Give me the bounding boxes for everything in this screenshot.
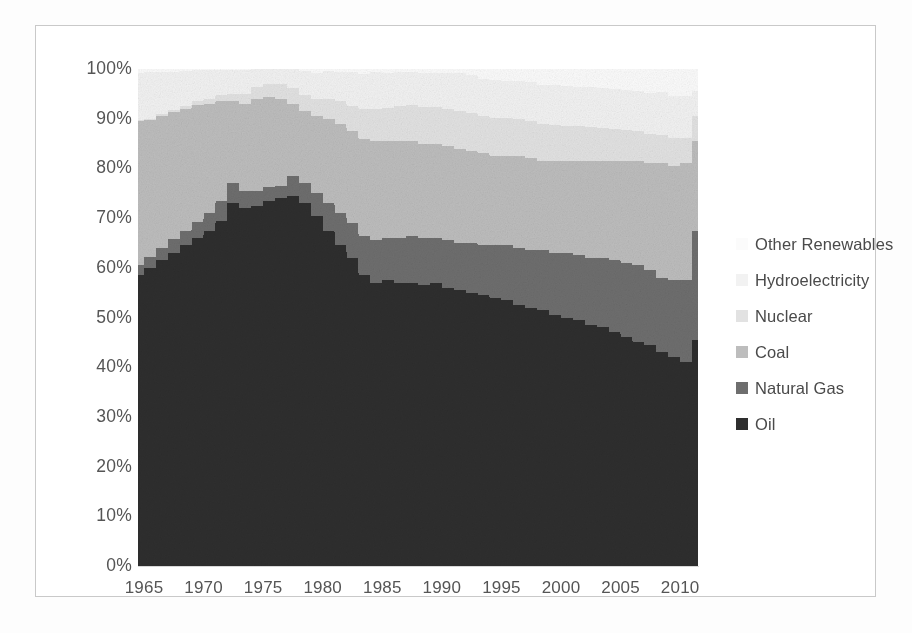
- legend-swatch-icon: [736, 310, 748, 322]
- x-axis-tick-label: 2010: [645, 578, 715, 598]
- x-axis: 1965197019751980198519901995200020052010: [138, 578, 708, 608]
- legend-item[interactable]: Other Renewables: [736, 226, 904, 262]
- legend-item-label: Natural Gas: [755, 379, 844, 398]
- chart-legend: Other RenewablesHydroelectricityNuclearC…: [736, 226, 904, 442]
- legend-item-label: Nuclear: [755, 307, 813, 326]
- y-axis-tick-label: 20%: [70, 456, 132, 477]
- y-axis-tick-label: 30%: [70, 406, 132, 427]
- plot-area: [138, 69, 698, 566]
- legend-swatch-icon: [736, 382, 748, 394]
- y-axis: 0%10%20%30%40%50%60%70%80%90%100%: [66, 69, 132, 566]
- y-axis-tick-label: 0%: [70, 555, 132, 576]
- legend-item-label: Hydroelectricity: [755, 271, 869, 290]
- y-axis-tick-label: 70%: [70, 207, 132, 228]
- y-axis-tick-label: 80%: [70, 157, 132, 178]
- legend-item[interactable]: Natural Gas: [736, 370, 904, 406]
- legend-item[interactable]: Coal: [736, 334, 904, 370]
- legend-item-label: Coal: [755, 343, 789, 362]
- legend-swatch-icon: [736, 274, 748, 286]
- x-axis-line: [138, 566, 699, 567]
- y-axis-tick-label: 50%: [70, 307, 132, 328]
- y-axis-tick-label: 60%: [70, 257, 132, 278]
- y-axis-tick-label: 90%: [70, 108, 132, 129]
- y-axis-tick-label: 100%: [70, 58, 132, 79]
- legend-swatch-icon: [736, 418, 748, 430]
- legend-item-label: Oil: [755, 415, 775, 434]
- legend-swatch-icon: [736, 238, 748, 250]
- chart-frame: 0%10%20%30%40%50%60%70%80%90%100%: [35, 25, 876, 597]
- legend-item[interactable]: Nuclear: [736, 298, 904, 334]
- legend-swatch-icon: [736, 346, 748, 358]
- legend-item[interactable]: Oil: [736, 406, 904, 442]
- y-axis-tick-label: 40%: [70, 356, 132, 377]
- y-axis-tick-label: 10%: [70, 505, 132, 526]
- legend-item-label: Other Renewables: [755, 235, 893, 254]
- chart-page: 0%10%20%30%40%50%60%70%80%90%100%: [0, 0, 912, 633]
- legend-item[interactable]: Hydroelectricity: [736, 262, 904, 298]
- stacked-area-series: [138, 69, 698, 566]
